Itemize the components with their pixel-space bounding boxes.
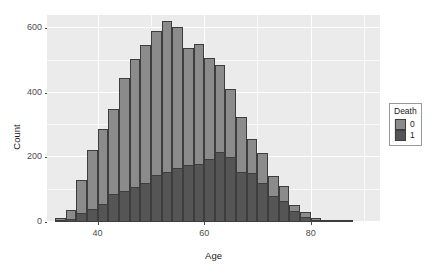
x-tick-mark [98, 222, 99, 225]
legend-swatch-key [394, 119, 406, 130]
histogram-bar [55, 220, 66, 222]
histogram-bar [215, 152, 226, 222]
legend-color-swatch [395, 119, 406, 130]
histogram-bar [119, 191, 130, 222]
chart-root: Count 0200400600 406080 Age Death 01 [0, 0, 435, 273]
histogram-bar [76, 213, 87, 222]
x-tick-label: 80 [291, 228, 331, 238]
plot-panel [47, 15, 380, 222]
legend-item[interactable]: 1 [394, 130, 417, 141]
histogram-bar [311, 220, 322, 222]
histogram-bar [300, 217, 311, 222]
legend-swatch-key [394, 130, 406, 141]
histogram-bar [66, 219, 77, 222]
legend-label: 1 [410, 131, 415, 140]
y-tick-label: 200 [12, 151, 42, 161]
histogram-bar [204, 159, 215, 222]
histogram-bars [47, 15, 380, 222]
histogram-bar [108, 194, 119, 222]
histogram-bar [279, 201, 290, 222]
histogram-bar [162, 172, 173, 222]
legend: Death 01 [389, 103, 422, 146]
x-axis-title: Age [47, 250, 380, 261]
y-tick-label: 600 [12, 22, 42, 32]
histogram-bar [172, 168, 183, 222]
histogram-bar [268, 196, 279, 222]
histogram-bar [247, 173, 258, 222]
x-tick-label: 60 [184, 228, 224, 238]
histogram-bar [87, 209, 98, 222]
histogram-bar [343, 220, 354, 222]
x-tick-label: 40 [78, 228, 118, 238]
histogram-bar [194, 164, 205, 222]
histogram-bar [225, 157, 236, 222]
histogram-bar [98, 204, 109, 222]
legend-items: 01 [394, 119, 417, 141]
y-tick-label: 400 [12, 87, 42, 97]
histogram-bar [257, 183, 268, 222]
x-tick-mark [311, 222, 312, 225]
y-axis-title: Count [11, 124, 22, 149]
y-tick-mark [45, 222, 48, 223]
legend-item[interactable]: 0 [394, 119, 417, 130]
histogram-bar [321, 220, 332, 222]
legend-color-swatch [395, 130, 406, 141]
histogram-bar [289, 211, 300, 222]
x-tick-mark [204, 222, 205, 225]
histogram-bar [140, 183, 151, 222]
legend-label: 0 [410, 120, 415, 129]
histogram-bar [151, 175, 162, 222]
histogram-bar [332, 220, 343, 222]
y-tick-label: 0 [12, 216, 42, 226]
histogram-bar [130, 187, 141, 222]
legend-title: Death [394, 107, 417, 116]
histogram-bar [183, 165, 194, 222]
histogram-bar [236, 172, 247, 222]
